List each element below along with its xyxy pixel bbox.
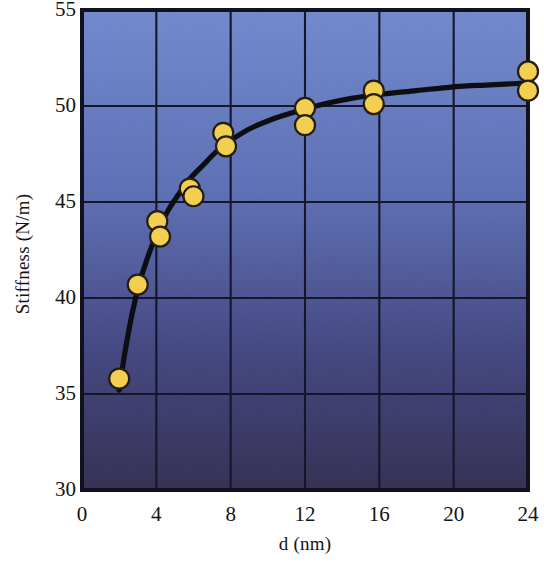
x-tick-label-0: 0 xyxy=(77,504,88,525)
x-axis-tick-labels: 04812162024 xyxy=(0,0,544,565)
x-axis-title: d (nm) xyxy=(82,533,528,555)
x-tick-label-24: 24 xyxy=(518,504,539,525)
stiffness-vs-diameter-chart: 303540455055 04812162024 Stiffness (N/m)… xyxy=(0,0,544,565)
x-tick-label-12: 12 xyxy=(295,504,316,525)
x-tick-label-16: 16 xyxy=(369,504,390,525)
y-axis-title: Stiffness (N/m) xyxy=(12,124,34,384)
x-tick-label-4: 4 xyxy=(151,504,162,525)
x-tick-label-8: 8 xyxy=(225,504,236,525)
x-tick-label-20: 20 xyxy=(443,504,464,525)
